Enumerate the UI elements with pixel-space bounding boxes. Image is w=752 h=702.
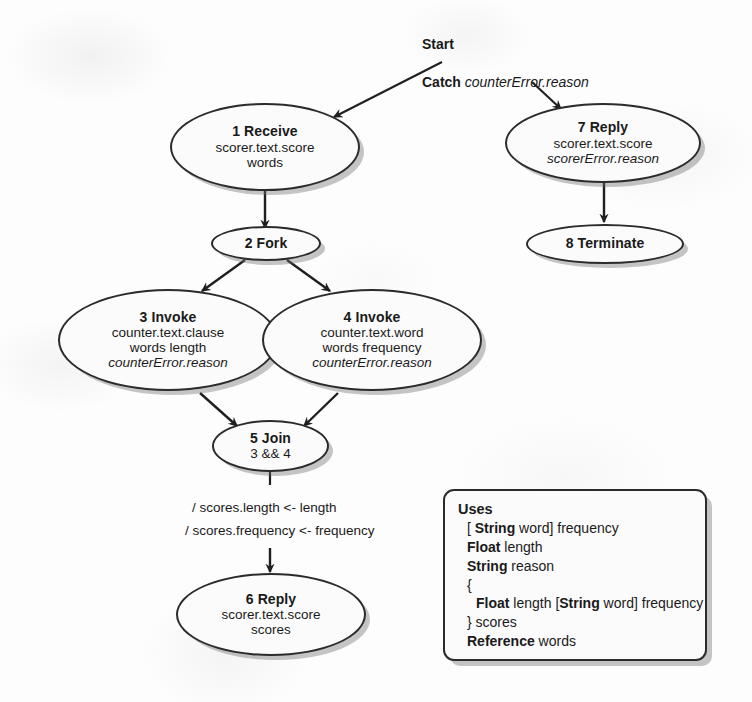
node-3-line-1: counter.text.clause <box>112 325 225 340</box>
uses-box-line-3: String reason <box>458 557 693 576</box>
uses-box-line-5: Float length [String word] frequency <box>458 594 693 613</box>
edge-2-to-4 <box>287 260 330 291</box>
node-3-line-3: counterError.reason <box>108 355 228 370</box>
node-8-title: 8 Terminate <box>566 236 645 252</box>
node-7-title: 7 Reply <box>578 120 629 136</box>
node-1-title: 1 Receive <box>232 124 298 140</box>
node-4-line-3: counterError.reason <box>312 355 432 370</box>
node-6-title: 6 Reply <box>246 592 297 608</box>
node-5-title: 5 Join <box>250 431 291 447</box>
edge-2-to-3 <box>202 260 245 291</box>
node-1-line-2: words <box>247 155 283 170</box>
diagram-canvas: Start Catch counterError.reason / scores… <box>0 0 752 702</box>
node-6-reply[interactable]: 6 Reply scorer.text.score scores <box>176 573 366 656</box>
node-4-line-1: counter.text.word <box>321 325 424 340</box>
node-2-fork[interactable]: 2 Fork <box>211 226 321 261</box>
catch-label: Catch counterError.reason <box>422 74 589 90</box>
node-6-line-1: scorer.text.score <box>221 607 320 622</box>
uses-box-line-6: } scores <box>458 613 693 632</box>
uses-box-line-2: Float length <box>458 538 693 557</box>
node-3-invoke[interactable]: 3 Invoke counter.text.clause words lengt… <box>58 289 278 391</box>
uses-box-title: Uses <box>458 500 693 519</box>
node-4-invoke[interactable]: 4 Invoke counter.text.word words frequen… <box>262 289 482 391</box>
node-4-line-2: words frequency <box>322 340 421 355</box>
node-2-title: 2 Fork <box>245 236 288 252</box>
catch-keyword: Catch <box>422 74 461 90</box>
node-3-title: 3 Invoke <box>140 310 197 326</box>
node-5-line-1: 3 && 4 <box>250 446 291 461</box>
node-8-terminate[interactable]: 8 Terminate <box>526 224 684 264</box>
node-3-line-2: words length <box>130 340 207 355</box>
uses-box-line-7: Reference words <box>458 632 693 651</box>
node-6-line-2: scores <box>251 622 291 637</box>
node-7-line-1: scorer.text.score <box>553 136 652 151</box>
join-to-reply-annotation-line2: / scores.frequency <- frequency <box>185 523 374 538</box>
node-1-receive[interactable]: 1 Receive scorer.text.score words <box>170 103 360 191</box>
node-4-title: 4 Invoke <box>344 310 401 326</box>
node-7-line-2: scorerError.reason <box>547 151 659 166</box>
uses-box-line-4: { <box>458 576 693 595</box>
uses-box-lines: [ String word] frequencyFloat lengthStri… <box>458 519 693 650</box>
node-5-join[interactable]: 5 Join 3 && 4 <box>212 420 329 472</box>
edge-3-to-5 <box>200 393 237 426</box>
catch-variable: counterError.reason <box>465 74 589 90</box>
join-to-reply-annotation-line1: / scores.length <- length <box>192 500 336 515</box>
uses-box-line-1: [ String word] frequency <box>458 519 693 538</box>
edge-4-to-5 <box>304 393 338 426</box>
node-1-line-1: scorer.text.score <box>215 140 314 155</box>
start-label: Start <box>422 36 454 52</box>
uses-box: Uses [ String word] frequencyFloat lengt… <box>443 489 707 661</box>
node-7-reply[interactable]: 7 Reply scorer.text.score scorerError.re… <box>505 103 701 183</box>
